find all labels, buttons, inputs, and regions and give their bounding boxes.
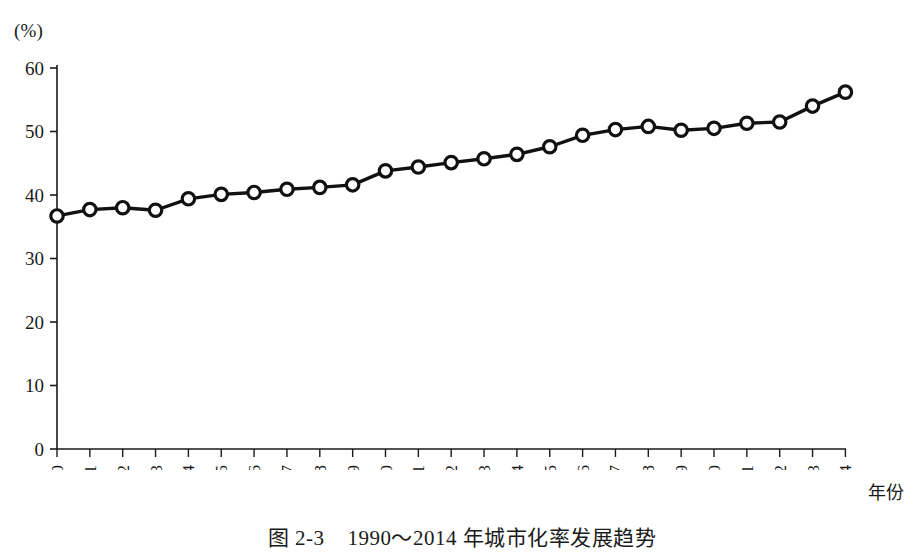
data-point-1991 [84, 203, 96, 215]
data-point-2013 [806, 100, 818, 112]
data-point-1993 [149, 204, 161, 216]
data-point-2008 [642, 120, 654, 132]
data-point-1997 [281, 183, 293, 195]
data-point-2009 [675, 124, 687, 136]
x-tick-label-2011: 2011 [738, 465, 757, 470]
data-point-1992 [117, 202, 129, 214]
x-axis-title: 年份 [868, 478, 904, 504]
x-axis-ticks [57, 449, 845, 457]
y-axis-tick-labels: 0102030405060 [25, 58, 44, 460]
x-tick-label-2006: 2006 [574, 465, 593, 470]
data-point-1996 [248, 186, 260, 198]
x-tick-label-2007: 2007 [606, 465, 625, 471]
x-tick-label-1991: 1991 [81, 465, 100, 470]
y-tick-label-20: 20 [25, 312, 44, 333]
y-tick-label-0: 0 [35, 439, 45, 460]
plot-area: 1990199119921993199419951996199719981999… [0, 0, 924, 470]
x-tick-label-1992: 1992 [114, 465, 133, 470]
x-tick-label-1997: 1997 [278, 465, 297, 471]
data-point-2003 [478, 153, 490, 165]
data-point-2006 [576, 129, 588, 141]
x-tick-label-2012: 2012 [771, 465, 790, 470]
x-tick-label-2000: 2000 [377, 465, 396, 470]
x-tick-label-2008: 2008 [639, 465, 658, 470]
figure-caption: 图 2-3 1990～2014 年城市化率发展趋势 [0, 521, 924, 551]
y-tick-label-40: 40 [25, 185, 44, 206]
data-point-2001 [412, 161, 424, 173]
data-series-line [57, 92, 845, 216]
data-point-1995 [215, 188, 227, 200]
x-tick-label-2014: 2014 [836, 465, 855, 471]
x-tick-label-2005: 2005 [541, 465, 560, 470]
x-tick-label-2010: 2010 [705, 465, 724, 470]
x-tick-label-2004: 2004 [508, 465, 527, 471]
x-tick-label-2003: 2003 [475, 465, 494, 470]
x-tick-label-1990: 1990 [48, 465, 67, 470]
x-tick-label-2001: 2001 [409, 465, 428, 470]
x-tick-label-1998: 1998 [311, 465, 330, 470]
x-tick-label-2013: 2013 [804, 465, 823, 470]
y-tick-label-30: 30 [25, 248, 44, 269]
data-point-2011 [741, 117, 753, 129]
data-point-1994 [182, 193, 194, 205]
data-point-2000 [379, 165, 391, 177]
x-axis-tick-labels: 1990199119921993199419951996199719981999… [48, 465, 855, 471]
y-tick-label-10: 10 [25, 375, 44, 396]
data-point-2005 [544, 141, 556, 153]
data-point-2010 [708, 122, 720, 134]
x-tick-label-1996: 1996 [245, 465, 264, 470]
data-point-2014 [839, 86, 851, 98]
data-point-2002 [445, 156, 457, 168]
x-tick-label-1995: 1995 [212, 465, 231, 470]
y-tick-label-60: 60 [25, 58, 44, 79]
data-point-2012 [774, 116, 786, 128]
x-tick-label-2002: 2002 [442, 465, 461, 470]
x-tick-label-1994: 1994 [179, 465, 198, 471]
data-point-1998 [314, 181, 326, 193]
x-tick-label-1993: 1993 [147, 465, 166, 470]
data-point-1999 [346, 179, 358, 191]
data-point-markers [51, 86, 852, 222]
data-point-1990 [51, 210, 63, 222]
data-point-2007 [609, 123, 621, 135]
x-tick-label-1999: 1999 [344, 465, 363, 470]
data-point-2004 [511, 148, 523, 160]
y-tick-label-50: 50 [25, 121, 44, 142]
line-chart-svg: 1990199119921993199419951996199719981999… [0, 0, 924, 470]
x-tick-label-2009: 2009 [672, 465, 691, 470]
figure-container: (%) 199019911992199319941995199619971998… [0, 0, 924, 557]
y-axis-ticks [50, 68, 57, 449]
